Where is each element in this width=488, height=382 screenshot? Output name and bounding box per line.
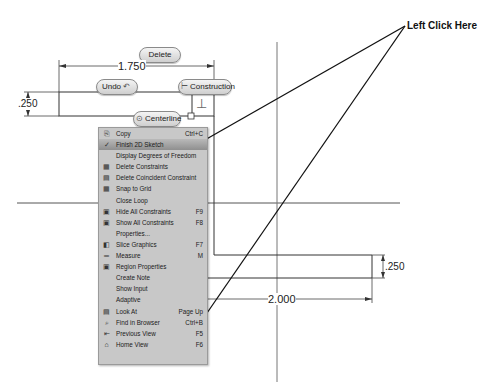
menu-item-measure[interactable]: ═MeasureM bbox=[99, 250, 207, 261]
menu-item-shortcut: Ctrl+C bbox=[185, 128, 203, 139]
menu-item-shortcut: F9 bbox=[196, 206, 203, 217]
measure-icon: ═ bbox=[102, 251, 111, 260]
menu-item-delete-coincident-constraint[interactable]: ▤Delete Coincident Constraint bbox=[99, 172, 207, 183]
menu-item-shortcut: Page Up bbox=[178, 306, 203, 317]
delete-label: Delete bbox=[148, 50, 171, 59]
menu-item-label: Close Loop bbox=[116, 195, 148, 206]
menu-item-label: Region Properties bbox=[116, 261, 166, 272]
find-browser-icon: ⌕ bbox=[102, 318, 111, 327]
construction-label: Construction bbox=[190, 82, 235, 91]
dimension-250-right[interactable]: .250 bbox=[385, 261, 404, 273]
menu-item-close-loop[interactable]: Close Loop bbox=[99, 195, 207, 206]
snap-grid-icon: ▦ bbox=[102, 184, 111, 193]
menu-item-shortcut: Ctrl+B bbox=[185, 317, 203, 328]
slice-graphics-icon: ◧ bbox=[102, 240, 111, 249]
delete-constraints-icon: ▦ bbox=[102, 162, 111, 171]
menu-item-label: Delete Constraints bbox=[116, 161, 168, 172]
menu-item-label: Copy bbox=[116, 128, 131, 139]
undo-label: Undo bbox=[102, 82, 121, 91]
menu-item-home-view[interactable]: ⌂Home ViewF6 bbox=[99, 339, 207, 350]
menu-item-label: Display Degrees of Freedom bbox=[116, 150, 196, 161]
menu-item-slice-graphics[interactable]: ◧Slice GraphicsF7 bbox=[99, 239, 207, 250]
perpendicular-glyph: ⊥ bbox=[196, 96, 207, 111]
construction-button[interactable]: ⊢Construction bbox=[178, 79, 232, 95]
previous-view-icon: ⇤ bbox=[102, 329, 111, 338]
menu-item-delete-constraints[interactable]: ▦Delete Constraints bbox=[99, 161, 207, 172]
centerline-button[interactable]: ⊙Centerline bbox=[133, 111, 181, 127]
menu-item-label: Hide All Constraints bbox=[116, 206, 171, 217]
centerline-icon: ⊙ bbox=[136, 114, 143, 123]
region-properties-icon: ▣ bbox=[102, 262, 111, 271]
show-constraints-icon: ▣ bbox=[102, 218, 111, 227]
hide-constraints-icon: ▣ bbox=[102, 207, 111, 216]
constraint-point[interactable] bbox=[188, 113, 194, 119]
menu-item-adaptive[interactable]: Adaptive bbox=[99, 294, 207, 305]
sketch-canvas[interactable]: ⊥ bbox=[0, 0, 488, 382]
menu-item-region-properties[interactable]: ▣Region Properties bbox=[99, 261, 207, 272]
delete-coincident-icon: ▤ bbox=[102, 173, 111, 182]
menu-item-label: Previous View bbox=[116, 328, 156, 339]
dimension-1750[interactable]: 1.750 bbox=[118, 60, 146, 72]
menu-item-shortcut: F5 bbox=[196, 328, 203, 339]
menu-item-shortcut: F7 bbox=[196, 239, 203, 250]
menu-item-label: Show All Constraints bbox=[116, 217, 174, 228]
callout-left-click-here: Left Click Here bbox=[407, 20, 477, 31]
menu-item-label: Slice Graphics bbox=[116, 239, 157, 250]
menu-item-shortcut: F6 bbox=[196, 339, 203, 350]
home-view-icon: ⌂ bbox=[102, 340, 111, 349]
menu-item-label: Home View bbox=[116, 339, 148, 350]
menu-item-properties[interactable]: Properties... bbox=[99, 228, 207, 239]
menu-item-label: Snap to Grid bbox=[116, 183, 151, 194]
menu-item-label: Finish 2D Sketch bbox=[116, 139, 164, 150]
menu-item-find-in-browser[interactable]: ⌕Find in BrowserCtrl+B bbox=[99, 317, 207, 328]
centerline-label: Centerline bbox=[145, 114, 181, 123]
menu-item-finish-2d-sketch[interactable]: ✓Finish 2D Sketch bbox=[99, 139, 207, 150]
menu-item-snap-to-grid[interactable]: ▦Snap to Grid bbox=[99, 183, 207, 194]
dimension-250-left[interactable]: .250 bbox=[18, 98, 37, 110]
copy-icon: ⎘ bbox=[102, 129, 111, 138]
undo-button[interactable]: Undo↶ bbox=[96, 79, 138, 95]
menu-item-label: Show Input bbox=[116, 283, 148, 294]
menu-item-hide-all-constraints[interactable]: ▣Hide All ConstraintsF9 bbox=[99, 206, 207, 217]
menu-item-label: Properties... bbox=[116, 228, 150, 239]
menu-item-look-at[interactable]: ▤Look AtPage Up bbox=[99, 306, 207, 317]
menu-item-label: Adaptive bbox=[116, 294, 141, 305]
menu-item-label: Find in Browser bbox=[116, 317, 160, 328]
menu-item-shortcut: F8 bbox=[196, 217, 203, 228]
callout-arrow-bottom bbox=[178, 26, 405, 355]
context-menu: ⎘CopyCtrl+C✓Finish 2D SketchDisplay Degr… bbox=[98, 127, 208, 365]
menu-item-shortcut: M bbox=[198, 250, 203, 261]
menu-item-copy[interactable]: ⎘CopyCtrl+C bbox=[99, 128, 207, 139]
menu-item-previous-view[interactable]: ⇤Previous ViewF5 bbox=[99, 328, 207, 339]
menu-item-label: Look At bbox=[116, 306, 137, 317]
finish-sketch-icon: ✓ bbox=[102, 140, 111, 149]
look-at-icon: ▤ bbox=[102, 307, 111, 316]
menu-item-label: Delete Coincident Constraint bbox=[116, 172, 196, 183]
menu-item-label: Measure bbox=[116, 250, 141, 261]
menu-item-show-all-constraints[interactable]: ▣Show All ConstraintsF8 bbox=[99, 217, 207, 228]
menu-item-show-input[interactable]: Show Input bbox=[99, 283, 207, 294]
menu-item-label: Create Note bbox=[116, 272, 150, 283]
menu-item-create-note[interactable]: Create Note bbox=[99, 272, 207, 283]
dimension-2000[interactable]: 2.000 bbox=[268, 293, 296, 305]
construction-icon: ⊢ bbox=[181, 82, 188, 91]
menu-item-display-degrees-of-freedom[interactable]: Display Degrees of Freedom bbox=[99, 150, 207, 161]
undo-icon: ↶ bbox=[123, 82, 130, 91]
